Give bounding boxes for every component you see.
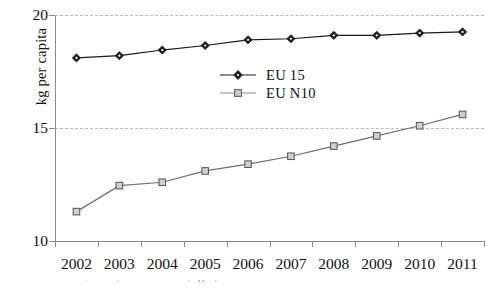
legend-marker-square-icon (218, 85, 258, 101)
data-point-eu-15-2008-center (333, 34, 335, 36)
data-point-eu-15-2009-center (376, 34, 378, 36)
x-tick-mark (227, 241, 228, 247)
data-point-eu-15-2004-center (161, 49, 163, 51)
data-point-eu-n10-2009 (373, 133, 380, 140)
data-series-layer (0, 0, 493, 292)
x-tick-mark (398, 241, 399, 247)
data-point-eu-n10-2006 (245, 161, 252, 168)
data-point-eu-n10-2011 (459, 111, 466, 118)
data-point-eu-15-2007-center (290, 38, 292, 40)
x-axis-tick-labels: 2002200320042005200620072008200920102011 (55, 255, 485, 277)
data-point-eu-15-2010-center (419, 32, 421, 34)
data-point-eu-n10-2003 (116, 182, 123, 189)
x-tick-mark (141, 241, 142, 247)
source-caption-clipped: Source: EU Commission, Summary of market… (0, 280, 493, 292)
data-point-eu-n10-2010 (416, 122, 423, 129)
y-tick-mark (49, 15, 55, 16)
legend-item-eun10: EU N10 (218, 84, 368, 102)
data-point-eu-15-2006-center (247, 39, 249, 41)
data-point-eu-n10-2005 (202, 168, 209, 175)
y-tick-mark (49, 128, 55, 129)
source-caption-text: Source: EU Commission, Summary of market… (3, 280, 217, 282)
x-tick-mark (441, 241, 442, 247)
x-tick-mark (355, 241, 356, 247)
legend-label-eu15: EU 15 (258, 67, 305, 84)
legend-marker-diamond-icon (218, 67, 258, 83)
data-point-eu-15-2011-center (461, 31, 463, 33)
data-point-eu-15-2003-center (118, 55, 120, 57)
x-tick-mark (270, 241, 271, 247)
data-point-eu-15-2005-center (204, 44, 206, 46)
x-tick-label-2011: 2011 (438, 255, 488, 272)
chart-legend: EU 15 EU N10 (218, 66, 368, 102)
line-chart: kg per capita 101520 2002200320042005200… (0, 0, 493, 292)
x-tick-mark (55, 241, 56, 247)
x-tick-mark (98, 241, 99, 247)
series-line-eu-n10 (76, 114, 462, 211)
legend-label-eun10: EU N10 (258, 85, 316, 102)
legend-item-eu15: EU 15 (218, 66, 368, 84)
data-point-eu-n10-2004 (159, 179, 166, 186)
x-tick-mark (484, 241, 485, 247)
data-point-eu-n10-2008 (331, 143, 338, 150)
x-tick-mark (184, 241, 185, 247)
x-tick-mark (312, 241, 313, 247)
data-point-eu-n10-2007 (288, 153, 295, 160)
data-point-eu-n10-2002 (73, 208, 80, 215)
data-point-eu-15-2002-center (75, 57, 77, 59)
series-line-eu-15 (76, 32, 462, 58)
